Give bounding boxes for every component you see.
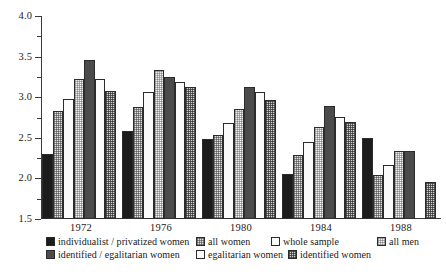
bar-chart: 4.03.53.02.52.01.5 19721976198019841988 …	[0, 0, 446, 278]
legend-item[interactable]: all men	[377, 236, 419, 247]
bar	[303, 142, 314, 219]
bar	[335, 117, 346, 219]
bar	[213, 135, 224, 219]
legend-item[interactable]: all women	[196, 236, 250, 247]
bar	[404, 151, 415, 219]
x-tick-label: 1972	[41, 222, 121, 234]
bar	[244, 87, 255, 219]
bar	[255, 92, 266, 219]
bar	[74, 79, 85, 219]
bar	[122, 131, 133, 219]
x-tick-label: 1976	[121, 222, 201, 234]
y-tick-label: 2.5	[19, 133, 32, 143]
bar	[345, 122, 356, 219]
bar	[84, 60, 95, 219]
bar	[95, 79, 106, 219]
bar	[133, 107, 144, 219]
bar-group	[42, 16, 116, 219]
x-tick-label: 1984	[281, 222, 361, 234]
bar	[143, 92, 154, 219]
bar-groups	[41, 16, 441, 219]
bar	[202, 139, 213, 219]
bar	[373, 175, 384, 219]
bar	[265, 100, 276, 219]
legend-item-label: whole sample	[283, 236, 339, 247]
legend-item[interactable]: identified women	[288, 249, 371, 260]
bar	[105, 91, 116, 219]
legend-item[interactable]: individualist / privatized women	[46, 236, 189, 247]
bar	[175, 82, 186, 219]
y-tick-label: 3.5	[19, 52, 32, 62]
x-tick-label: 1980	[201, 222, 281, 234]
bar-group	[362, 16, 436, 219]
bar	[394, 151, 405, 219]
y-tick-label: 2.0	[19, 173, 32, 183]
y-tick-label: 3.0	[19, 92, 32, 102]
bar	[425, 182, 436, 219]
bar	[293, 155, 304, 219]
legend-swatch-icon	[196, 250, 205, 259]
plot-area: 4.03.53.02.52.01.5 19721976198019841988	[0, 0, 446, 232]
bar	[282, 174, 293, 219]
legend-swatch-icon	[196, 237, 205, 246]
y-tick-label: 1.5	[19, 214, 32, 224]
y-tick-major	[35, 219, 41, 220]
y-tick-label: 4.0	[19, 11, 32, 21]
legend-swatch-icon	[377, 237, 386, 246]
bar	[154, 70, 165, 219]
legend-item[interactable]: egalitarian women	[196, 249, 283, 260]
bar	[63, 99, 74, 219]
legend-swatch-icon	[271, 237, 280, 246]
legend-item-label: egalitarian women	[208, 249, 283, 260]
legend-item-label: identified women	[300, 249, 371, 260]
legend-swatch-icon	[288, 250, 297, 259]
bar	[53, 111, 64, 219]
legend-item[interactable]: whole sample	[271, 236, 339, 247]
bar	[164, 77, 175, 219]
legend-item[interactable]: identified / egalitarian women	[46, 249, 180, 260]
bar	[234, 109, 245, 219]
legend-swatch-icon	[46, 250, 55, 259]
bar	[223, 123, 234, 219]
x-tick-label: 1988	[361, 222, 441, 234]
bar-group	[282, 16, 356, 219]
legend-swatch-icon	[46, 237, 55, 246]
bar-group	[202, 16, 276, 219]
bar	[185, 87, 196, 219]
legend-item-label: all men	[389, 236, 419, 247]
bar	[314, 127, 325, 219]
legend-item-label: all women	[208, 236, 250, 247]
chart-legend: individualist / privatized womenall wome…	[0, 236, 446, 266]
bar-group	[122, 16, 196, 219]
legend-item-label: identified / egalitarian women	[58, 249, 180, 260]
bar	[42, 154, 53, 219]
bar	[362, 138, 373, 219]
bar	[383, 165, 394, 219]
legend-item-label: individualist / privatized women	[58, 236, 189, 247]
bar	[324, 106, 335, 219]
